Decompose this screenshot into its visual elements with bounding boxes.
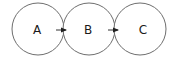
node-c: C [114, 3, 166, 55]
node-b: B [63, 3, 115, 55]
node-a-label: A [33, 23, 42, 37]
node-c-label: C [139, 23, 147, 37]
flow-diagram: A B C [0, 0, 177, 58]
node-a: A [12, 3, 64, 55]
node-b-label: B [84, 23, 92, 37]
